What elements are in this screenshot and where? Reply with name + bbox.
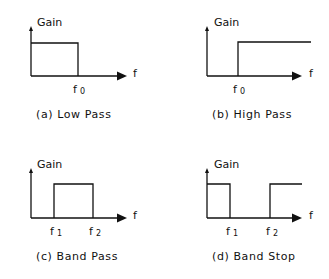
gain-curve xyxy=(31,43,78,76)
gain-curve-high xyxy=(270,184,302,218)
y-axis-label: Gain xyxy=(37,158,62,171)
y-axis-label: Gain xyxy=(214,158,239,171)
y-axis-label: Gain xyxy=(37,16,62,29)
caption-band-stop: (d) Band Stop xyxy=(212,250,296,263)
caption-high-pass: (b) High Pass xyxy=(212,108,292,121)
y-axis-arrow-icon xyxy=(29,26,33,31)
x-axis-arrow-icon xyxy=(292,214,302,223)
y-axis-arrow-icon xyxy=(205,168,209,173)
y-axis-label: Gain xyxy=(214,16,239,29)
x-axis-label: f xyxy=(309,209,314,222)
tick-f0: f0 xyxy=(233,83,245,96)
x-axis-label: f xyxy=(133,209,138,222)
tick-f0: f0 xyxy=(73,83,85,96)
y-axis-arrow-icon xyxy=(29,168,33,173)
caption-low-pass: (a) Low Pass xyxy=(36,108,112,121)
gain-curve-low xyxy=(207,184,230,218)
x-axis-label: f xyxy=(309,67,314,80)
gain-curve xyxy=(238,42,311,76)
tick-f2: f2 xyxy=(89,225,101,238)
panel-band-stop xyxy=(205,168,302,223)
tick-f1: f1 xyxy=(50,225,62,238)
panel-low-pass xyxy=(29,26,127,81)
tick-f2: f2 xyxy=(266,225,278,238)
x-axis-arrow-icon xyxy=(117,72,127,81)
panel-high-pass xyxy=(205,26,311,81)
x-axis-arrow-icon xyxy=(117,214,127,223)
gain-curve xyxy=(54,184,93,218)
x-axis-arrow-icon xyxy=(292,72,302,81)
tick-f1: f1 xyxy=(226,225,238,238)
caption-band-pass: (c) Band Pass xyxy=(36,250,118,263)
filter-types-diagram: Gain f f0 (a) Low Pass Gain f f0 (b) Hig… xyxy=(0,0,329,279)
x-axis-label: f xyxy=(133,67,138,80)
y-axis-arrow-icon xyxy=(205,26,209,31)
panel-band-pass xyxy=(29,168,127,223)
